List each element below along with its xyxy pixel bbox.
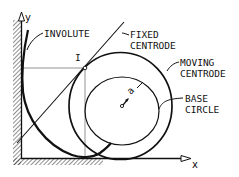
y-axis-arrow-icon [19, 12, 25, 21]
base-circle-label-1: BASE [185, 93, 208, 104]
x-axis-arrow-icon [181, 156, 191, 162]
involute-leader [27, 33, 43, 50]
moving-centrode-label-2: CENTRODE [180, 68, 226, 79]
moving-centrode-leader [167, 62, 179, 71]
fixed-centrode-label-2: CENTRODE [130, 40, 176, 51]
involute-curve [22, 30, 111, 157]
moving-centrode-label-1: MOVING [180, 57, 215, 68]
base-circle-leader [159, 98, 183, 109]
base-circle-label-2: CIRCLE [185, 104, 220, 115]
instant-center-point [83, 66, 87, 70]
fixed-centrode-label-1: FIXED [130, 29, 159, 40]
involute-centrode-diagram: y x I a INVOLUTE FIXED CENTRODE MOVING C… [0, 0, 239, 177]
involute-label: INVOLUTE [44, 28, 90, 39]
y-axis-label: y [25, 12, 31, 23]
radius-dimension: a [120, 82, 143, 108]
radius-label: a [124, 85, 136, 96]
instant-center-label: I [75, 52, 81, 63]
x-axis-label: x [192, 159, 198, 170]
base-circle [85, 77, 159, 145]
fixed-centrode-leader [122, 33, 129, 35]
